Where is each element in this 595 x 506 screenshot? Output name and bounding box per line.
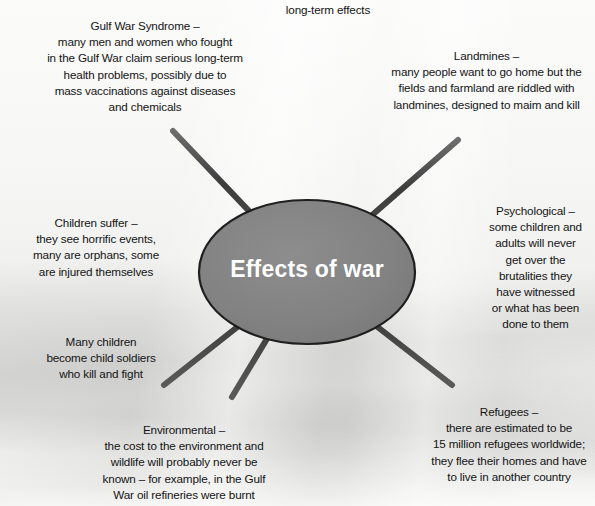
branch-line: are injured themselves [0,264,192,280]
hub-ellipse [199,200,415,344]
branch-gulf-war-syndrome: Gulf War Syndrome – many men and women w… [2,18,288,115]
branch-line: in the Gulf War claim serious long-term [2,50,288,66]
effects-of-war-diagram: Effects of war long-term effects Gulf Wa… [0,0,595,506]
branch-landmines: Landmines – many people want to go home … [378,48,595,113]
branch-line: adults will never [476,235,595,251]
branch-line: get over the [476,252,595,268]
branch-heading: Environmental – [68,422,300,438]
branch-line: some children and [476,219,595,235]
branch-line: many men and women who fought [2,34,288,50]
branch-line: many people want to go home but the [378,64,595,80]
branch-line: landmines, designed to maim and kill [378,97,595,113]
branch-heading: Gulf War Syndrome – [2,18,288,34]
branch-line: mass vaccinations against diseases [2,83,288,99]
branch-line: fields and farmland are riddled with [378,80,595,96]
branch-line: many are orphans, some [0,247,192,263]
branch-line: 15 million refugees worldwide; [423,436,595,452]
branch-environmental: Environmental – the cost to the environm… [68,422,300,503]
branch-line: health problems, possibly due to [2,67,288,83]
branch-line: known – for example, in the Gulf [68,471,300,487]
branch-refugees: Refugees – there are estimated to be 15 … [423,404,595,485]
branch-line: the cost to the environment and [68,438,300,454]
branch-heading: Many children [18,334,184,350]
branch-heading: Children suffer – [0,215,192,231]
branch-line: who kill and fight [18,366,184,382]
branch-heading: Refugees – [423,404,595,420]
branch-children-suffer: Children suffer – they see horrific even… [0,215,192,280]
branch-line: have witnessed [476,284,595,300]
branch-line: brutalities they [476,268,595,284]
branch-line: they flee their homes and have [423,453,595,469]
branch-heading: Landmines – [378,48,595,64]
branch-line: there are estimated to be [423,420,595,436]
branch-line: War oil refineries were burnt [68,487,300,503]
long-term-effects-text: long-term effects [286,3,370,16]
branch-line: done to them [476,316,595,332]
branch-line: to live in another country [423,469,595,485]
branch-heading: Psychological – [476,203,595,219]
branch-line: wildlife will probably never be [68,454,300,470]
branch-line: and chemicals [2,99,288,115]
branch-line: become child soldiers [18,350,184,366]
branch-line: or what has been [476,300,595,316]
branch-line: they see horrific events, [0,231,192,247]
branch-child-soldiers: Many children become child soldiers who … [18,334,184,383]
label-long-term-effects: long-term effects [233,2,423,18]
branch-psychological: Psychological – some children and adults… [476,203,595,333]
